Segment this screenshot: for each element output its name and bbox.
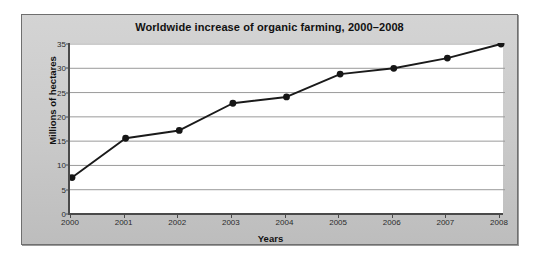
x-tick-mark	[124, 214, 125, 218]
x-tick-mark	[231, 214, 232, 218]
x-tick-label: 2006	[372, 218, 412, 227]
y-tick-label: 15	[44, 137, 66, 146]
x-tick-mark	[392, 214, 393, 218]
x-tick-label: 2001	[104, 218, 144, 227]
x-tick-label: 2005	[318, 218, 358, 227]
x-tick-label: 2000	[50, 218, 90, 227]
y-axis-ticks: 05101520253035	[40, 43, 66, 215]
line-chart-svg	[70, 43, 505, 215]
y-tick-label: 5	[44, 185, 66, 194]
x-tick-label: 2008	[479, 218, 519, 227]
x-tick-mark	[445, 214, 446, 218]
x-axis-ticks: 200020012002200320042005200620072008	[68, 218, 503, 232]
x-tick-mark	[70, 214, 71, 218]
figure: Worldwide increase of organic farming, 2…	[0, 0, 552, 272]
y-tick-label: 20	[44, 112, 66, 121]
y-tick-label: 30	[44, 64, 66, 73]
chart-title: Worldwide increase of organic farming, 2…	[22, 21, 517, 33]
plot-area-wrapper	[68, 43, 519, 215]
x-tick-label: 2004	[265, 218, 305, 227]
chart-panel: Worldwide increase of organic farming, 2…	[21, 14, 518, 245]
x-tick-mark	[338, 214, 339, 218]
y-tick-label: 35	[44, 40, 66, 49]
x-tick-label: 2003	[211, 218, 251, 227]
x-axis-label: Years	[22, 233, 519, 244]
x-tick-label: 2002	[157, 218, 197, 227]
plot-area	[68, 43, 503, 215]
y-tick-label: 25	[44, 88, 66, 97]
x-tick-mark	[177, 214, 178, 218]
x-tick-mark	[285, 214, 286, 218]
x-tick-label: 2007	[425, 218, 465, 227]
x-tick-mark	[499, 214, 500, 218]
y-tick-label: 10	[44, 161, 66, 170]
